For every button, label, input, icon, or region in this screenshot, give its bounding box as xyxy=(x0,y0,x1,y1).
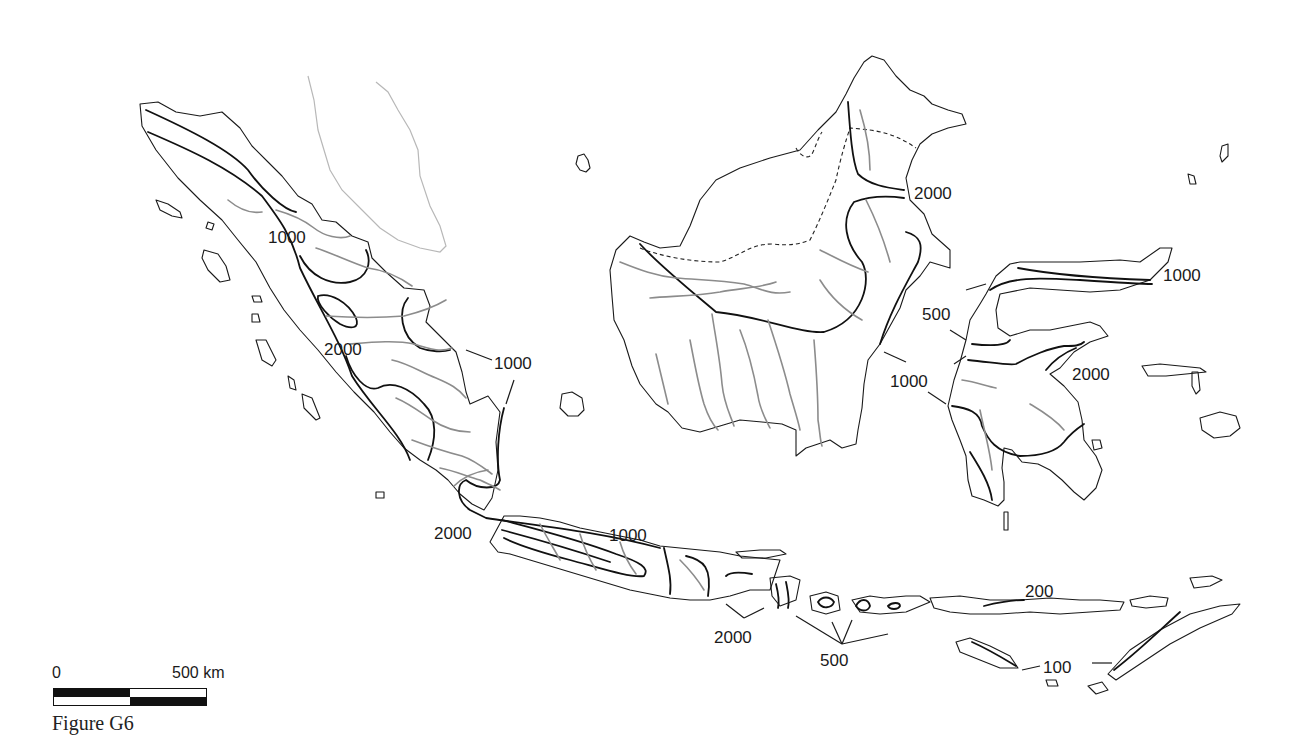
maluku-islands xyxy=(1142,364,1240,438)
label-sumatra-north-1000: 1000 xyxy=(268,228,306,247)
indonesia-isohyet-map: 1000 2000 1000 2000 1000 500 1000 2000 2… xyxy=(0,0,1297,750)
isohyet-2000-loop xyxy=(640,197,904,332)
isohyet-1000-north xyxy=(990,279,1152,290)
scale-bar xyxy=(53,688,207,706)
label-java-1000: 1000 xyxy=(609,526,647,545)
island-bangka xyxy=(560,392,584,416)
lombok xyxy=(810,592,840,614)
isohyet-500 xyxy=(972,340,1010,345)
timor xyxy=(1108,604,1240,680)
sumatra xyxy=(140,102,660,548)
borneo xyxy=(610,56,966,456)
figure-caption: Figure G6 xyxy=(52,712,134,735)
label-timor-100: 100 xyxy=(1043,658,1071,677)
bali xyxy=(770,576,800,606)
label-nusa-500: 500 xyxy=(820,651,848,670)
national-border xyxy=(640,128,916,262)
annotation-arrows xyxy=(466,284,1112,670)
label-sulawesi-500: 500 xyxy=(922,305,950,324)
isohyet-labels: 1000 2000 1000 2000 1000 500 1000 2000 2… xyxy=(268,184,1201,677)
label-java-west-2000: 2000 xyxy=(434,524,472,543)
sumba xyxy=(956,638,1018,668)
isohyet-1000b xyxy=(148,132,410,460)
scale-start-label: 0 xyxy=(52,664,61,682)
isohyet-1000 xyxy=(146,110,296,212)
isohyet-1000-java xyxy=(664,548,671,594)
scale-bar-segment xyxy=(130,689,206,697)
label-borneo-2000: 2000 xyxy=(914,184,952,203)
scale-end-label: 500 km xyxy=(172,664,224,682)
label-sulawesi-west-1000: 1000 xyxy=(890,372,928,391)
label-bali-2000: 2000 xyxy=(714,628,752,647)
malay-peninsula xyxy=(308,76,446,252)
scale-bar-segment xyxy=(130,697,206,705)
isohyet-2000-ellipse xyxy=(318,295,357,327)
isohyet-100-timor xyxy=(1114,612,1180,670)
isohyet-2000-north xyxy=(848,102,904,190)
isohyet-1000-west xyxy=(952,406,1084,456)
label-sumatra-2000: 2000 xyxy=(324,340,362,359)
sulawesi xyxy=(948,248,1172,530)
scale-bar-segment xyxy=(54,697,130,705)
lesser-sunda xyxy=(770,576,1240,694)
scale-bar-segment xyxy=(54,689,130,697)
label-sulawesi-2000: 2000 xyxy=(1072,365,1110,384)
island-natuna xyxy=(576,154,590,172)
label-sulawesi-north-1000: 1000 xyxy=(1163,266,1201,285)
label-sumatra-east-1000: 1000 xyxy=(494,354,532,373)
label-flores-200: 200 xyxy=(1025,582,1053,601)
isohyet-100-sumba xyxy=(972,642,1016,666)
